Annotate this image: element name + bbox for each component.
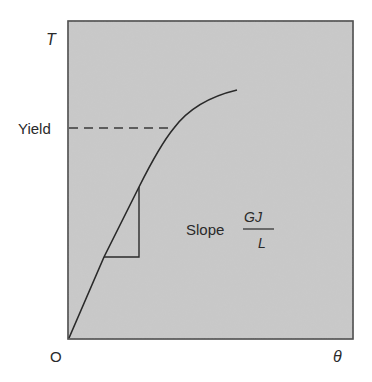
y-axis-label: T [46,31,57,48]
origin-label: O [50,348,62,365]
slope-label: Slope [186,221,224,238]
diagram-svg: T Yield O θ Slope GJ L [0,0,372,382]
slope-denominator: L [258,235,266,251]
yield-label: Yield [18,120,51,137]
plot-texture [68,21,353,339]
x-axis-label: θ [333,348,342,365]
slope-numerator: GJ [244,209,263,225]
torque-twist-diagram: T Yield O θ Slope GJ L [0,0,372,382]
